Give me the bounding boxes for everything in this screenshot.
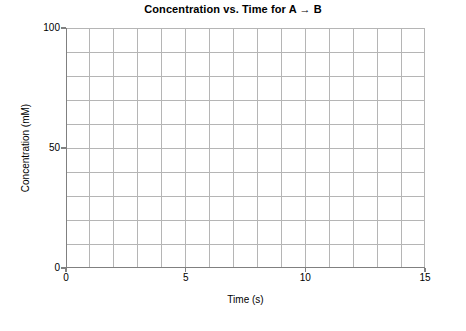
x-tick-label: 15 bbox=[405, 272, 445, 283]
chart-figure: Concentration vs. Time for A → B 050100 … bbox=[0, 0, 466, 331]
y-axis-label: Concentration (mM) bbox=[20, 28, 34, 268]
x-tick-label: 10 bbox=[285, 272, 325, 283]
x-tick-label: 5 bbox=[166, 272, 206, 283]
x-tick-label: 0 bbox=[46, 272, 86, 283]
x-axis-label: Time (s) bbox=[66, 294, 425, 305]
